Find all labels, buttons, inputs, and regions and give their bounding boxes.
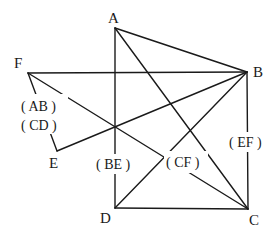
edge-label-be: ( BE ) <box>96 157 131 173</box>
point-label-d: D <box>100 210 111 226</box>
segment-ab <box>115 28 247 72</box>
edge-label-ef: ( EF ) <box>229 135 262 151</box>
geometry-diagram: ( AB ) ( CD ) ( BE ) ( CF ) ( EF ) A B C… <box>0 0 278 235</box>
point-label-c: C <box>249 212 259 228</box>
edge-label-cd: ( CD ) <box>21 118 57 134</box>
segment-eb <box>57 72 247 151</box>
segment-dc <box>115 208 248 209</box>
segment-fb <box>28 72 247 73</box>
point-label-a: A <box>108 10 119 26</box>
point-label-b: B <box>253 64 263 80</box>
edge-label-cf: ( CF ) <box>166 155 200 171</box>
edge-label-ab: ( AB ) <box>21 99 56 115</box>
point-label-f: F <box>14 55 22 71</box>
point-label-e: E <box>49 155 58 171</box>
segment-fc <box>28 73 248 209</box>
